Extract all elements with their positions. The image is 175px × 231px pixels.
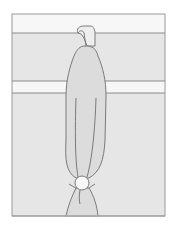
curtain-drawing [0,0,175,231]
curtain-panel [66,46,106,178]
curtain-illustration [0,0,175,231]
tie-knot-icon [75,176,89,190]
